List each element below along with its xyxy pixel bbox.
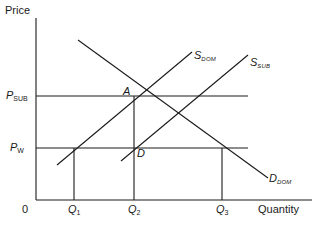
point-label-d: D (137, 147, 145, 159)
curve-label-s-sub: SSUB (250, 56, 270, 68)
curve-s-sub (121, 55, 248, 161)
curve-d-dom-subscript: DOM (277, 179, 292, 185)
x-tick-q2-base: Q (128, 203, 137, 215)
curve-label-d-dom: DDOM (269, 172, 292, 184)
y-tick-label-psub: PSUB (6, 89, 28, 101)
y-tick-label-pw: PW (10, 141, 24, 153)
y-axis-title: Price (5, 4, 30, 16)
x-tick-q1-subscript: 1 (77, 209, 81, 216)
curve-d-dom (78, 40, 268, 178)
origin-label: 0 (22, 203, 28, 215)
curve-s-dom-subscript: DOM (201, 56, 216, 62)
x-tick-q3-base: Q (216, 203, 225, 215)
x-tick-label-q2: Q2 (128, 203, 140, 215)
x-tick-label-q3: Q3 (216, 203, 228, 215)
x-tick-q3-subscript: 3 (225, 209, 229, 216)
x-tick-q2-subscript: 2 (137, 209, 141, 216)
x-tick-q1-base: Q (68, 203, 77, 215)
y-tick-psub-subscript: SUB (13, 95, 27, 102)
chart-canvas (0, 0, 316, 235)
x-axis-title: Quantity (258, 203, 299, 215)
curve-s-sub-subscript: SUB (257, 63, 270, 69)
x-tick-label-q1: Q1 (68, 203, 80, 215)
curve-label-s-dom: SDOM (194, 49, 216, 61)
y-tick-pw-subscript: W (17, 147, 24, 154)
supply-demand-figure: Price Quantity 0 PSUB PW Q1 Q2 Q3 SDOM S… (0, 0, 316, 235)
point-label-a: A (123, 85, 130, 97)
curve-d-dom-base: D (269, 172, 277, 184)
